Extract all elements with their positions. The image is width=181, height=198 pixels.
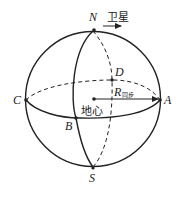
label-earth-center: 地心 <box>81 105 103 118</box>
equator-back-dashed <box>26 80 160 100</box>
label-b: B <box>65 119 73 133</box>
point-a <box>158 98 162 102</box>
point-s <box>91 166 94 169</box>
label-d: D <box>114 65 124 79</box>
earth-center-dot <box>92 97 96 101</box>
label-s: S <box>89 171 95 185</box>
label-c: C <box>13 93 22 107</box>
label-a: A <box>163 93 172 107</box>
label-radius-subscript: 同步 <box>122 91 134 99</box>
meridian-front <box>73 31 93 167</box>
point-d <box>110 78 114 82</box>
point-b <box>74 116 78 120</box>
label-radius: R <box>113 85 122 99</box>
point-n <box>92 28 96 32</box>
label-n: N <box>88 10 98 24</box>
point-c <box>24 98 28 102</box>
label-satellite: 卫星 <box>107 11 129 24</box>
sphere-diagram: N 卫星 D R 同步 A C 地心 B S <box>0 0 181 198</box>
